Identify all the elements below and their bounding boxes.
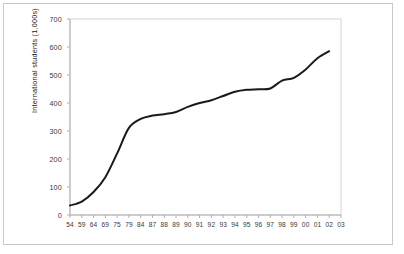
figure-frame: International students (1,000s) 01002003… bbox=[3, 3, 393, 245]
chart-figure: International students (1,000s) 01002003… bbox=[0, 0, 404, 254]
plot-background bbox=[70, 19, 341, 215]
plot-area bbox=[4, 4, 394, 246]
axes-group bbox=[67, 19, 341, 218]
